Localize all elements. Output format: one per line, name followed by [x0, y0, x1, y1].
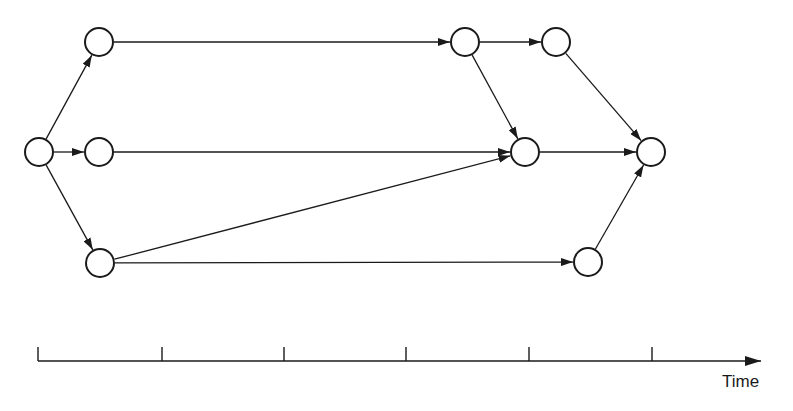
edge-arrow [595, 165, 643, 249]
time-axis [38, 347, 761, 361]
edge-arrow [472, 55, 518, 139]
event-node [85, 28, 113, 56]
event-node [25, 138, 53, 166]
time-axis-label: Time [722, 372, 759, 392]
event-node [637, 138, 665, 166]
event-node [542, 28, 570, 56]
edge-arrow [566, 53, 641, 140]
edge-arrow [46, 165, 93, 250]
event-node [511, 138, 539, 166]
event-node [86, 249, 114, 277]
edges-group [46, 42, 643, 263]
event-node [574, 248, 602, 276]
edge-arrow [115, 156, 511, 259]
network-diagram [0, 0, 793, 411]
edge-arrow [46, 55, 92, 139]
event-node [451, 28, 479, 56]
edge-arrow [115, 262, 573, 263]
event-node [85, 138, 113, 166]
